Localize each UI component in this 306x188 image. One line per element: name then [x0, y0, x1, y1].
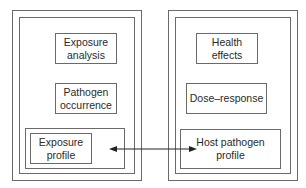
- bidirectional-arrow-icon: [0, 0, 306, 188]
